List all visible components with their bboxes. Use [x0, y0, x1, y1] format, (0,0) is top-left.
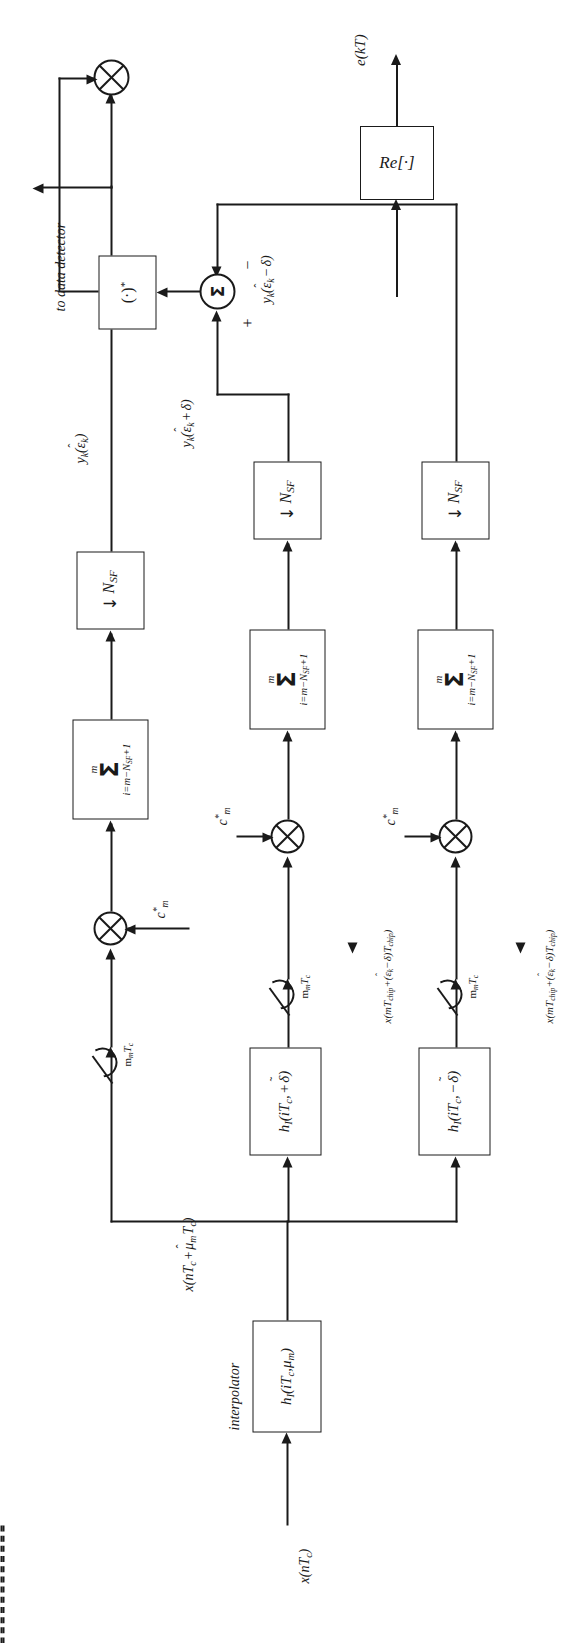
wire-error-out	[396, 62, 398, 126]
error-output-label: e(kT)	[352, 34, 369, 66]
wire-mult-to-real	[396, 207, 398, 297]
arrowhead-error-out	[391, 54, 401, 65]
output-stage-layer: Re[·] e(kT)	[0, 0, 573, 1643]
figure-page: x(nTc) interpolator hI(iTc,μm) x(nTc + ˆ…	[0, 0, 573, 1643]
real-part-block[interactable]: Re[·]	[360, 126, 434, 200]
arrowhead-real-in	[391, 199, 401, 210]
